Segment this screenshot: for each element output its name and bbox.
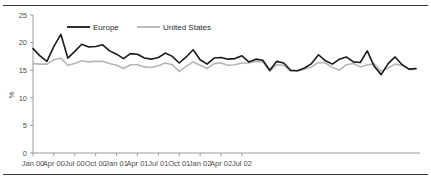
x-tick-label: Oct 00 [85, 159, 107, 168]
x-axis-tick-labels: Jan 00Apr 00Jul 00Oct 00Jan 01Apr 01Jul … [22, 159, 252, 168]
x-tick-label: Apr 01 [126, 159, 148, 168]
chart-legend: EuropeUnited States [67, 23, 211, 32]
y-tick-label: 0 [23, 149, 27, 158]
x-tick-label: Apr 02 [210, 159, 232, 168]
top-divider-rule [3, 5, 428, 6]
chart-figure: 0510152025 Jan 00Apr 00Jul 00Oct 00Jan 0… [0, 0, 431, 182]
y-tick-label: 20 [19, 38, 27, 47]
bottom-divider-rule [3, 174, 428, 175]
x-tick-label: Jul 01 [148, 159, 168, 168]
series-line-europe [33, 34, 416, 74]
legend-label-europe: Europe [93, 23, 119, 32]
x-tick-label: Jan 00 [22, 159, 45, 168]
x-tick-label: Jan 01 [105, 159, 128, 168]
y-tick-label: 25 [19, 11, 27, 20]
line-chart-plot: 0510152025 Jan 00Apr 00Jul 00Oct 00Jan 0… [0, 0, 431, 182]
y-tick-label: 10 [19, 94, 27, 103]
y-tick-label: 15 [19, 66, 27, 75]
x-tick-label: Apr 00 [43, 159, 65, 168]
x-tick-label: Jul 02 [232, 159, 252, 168]
series-lines [33, 34, 416, 74]
x-tick-label: Jan 02 [189, 159, 212, 168]
y-tick-label: 5 [23, 121, 27, 130]
series-line-united-states [33, 58, 416, 71]
y-axis-tick-labels: 0510152025 [19, 11, 27, 158]
x-tick-label: Oct 01 [168, 159, 190, 168]
y-axis-title: % [7, 91, 16, 98]
legend-label-united-states: United States [163, 23, 211, 32]
x-tick-label: Jul 00 [65, 159, 85, 168]
